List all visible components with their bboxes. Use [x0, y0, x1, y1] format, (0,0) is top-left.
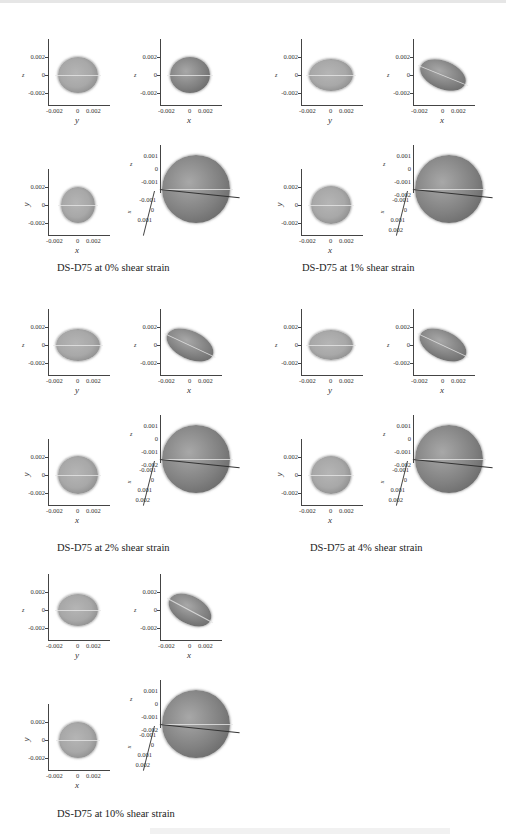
z-tick-label: 0: [155, 701, 158, 708]
y-tick-mark: [410, 327, 413, 328]
y-tick-mark: [298, 345, 301, 346]
plot-yx: 0.0020-0.002-0.00200.002yx: [273, 435, 368, 515]
x-axis: [160, 640, 222, 641]
y-tick-mark: [45, 628, 48, 629]
panel-caption: DS-D75 at 0% shear strain: [57, 262, 170, 273]
plot-3d: 0.0010-0.001-0.00100.001zx: [130, 145, 245, 245]
x-tick-label: 0.002: [198, 108, 213, 115]
plot-zy: 0.0020-0.002-0.00200.002zy: [20, 35, 115, 115]
z-tick-label: 0: [155, 166, 158, 173]
y-tick-label: 0.002: [142, 54, 157, 61]
z-axis-label: z: [130, 161, 132, 167]
x-axis-label: x: [187, 116, 191, 125]
x-axis: [48, 505, 110, 506]
y-axis-label: y: [22, 473, 31, 477]
x-tick-label: 0: [441, 108, 444, 115]
x-tick-label: -0.002: [46, 238, 63, 245]
y-tick-label: -0.002: [281, 90, 298, 97]
x-tick-label: -0.001: [392, 467, 409, 474]
x-tick-label: -0.002: [299, 238, 316, 245]
x-axis-label: x: [328, 246, 332, 255]
y-axis: [48, 439, 49, 505]
x-tick-label: -0.002: [46, 773, 63, 780]
x-tick-label: -0.002: [299, 508, 316, 515]
y-tick-label: -0.002: [281, 220, 298, 227]
x-axis-label: x: [328, 516, 332, 525]
y-tick-label: -0.002: [393, 360, 410, 367]
x-axis: [48, 235, 110, 236]
x-tick-label: -0.001: [139, 732, 156, 739]
x-axis-label: x: [440, 116, 444, 125]
x-tick-label: 0: [188, 108, 191, 115]
y-tick-label: -0.002: [140, 625, 157, 632]
x-tick-label: -0.001: [139, 467, 156, 474]
y-axis-label: z: [275, 342, 277, 348]
y-axis: [160, 39, 161, 105]
y-axis: [48, 704, 49, 770]
y-tick-label: 0.002: [30, 454, 45, 461]
y-tick-mark: [157, 75, 160, 76]
x-tick-label: -0.002: [299, 378, 316, 385]
x-axis: [413, 375, 475, 376]
x-axis-label: x: [75, 516, 79, 525]
z-axis: [160, 680, 161, 728]
x-axis: [160, 105, 222, 106]
y-tick-label: -0.002: [28, 755, 45, 762]
plot-zx: 0.0020-0.002-0.00200.002zx: [132, 35, 227, 115]
z-tick-label: -0.001: [141, 179, 158, 186]
x-axis-label: x: [379, 211, 385, 214]
y-tick-mark: [157, 327, 160, 328]
x-tick-label: 0: [441, 378, 444, 385]
plot-3d: 0.0010-0.001-0.002-0.00100.0010.002zx: [383, 145, 498, 245]
x-axis-label: x: [126, 211, 132, 214]
x-axis: [413, 105, 475, 106]
y-tick-mark: [157, 610, 160, 611]
x-tick-label: 0.002: [86, 508, 101, 515]
y-tick-mark: [45, 610, 48, 611]
y-axis-label: z: [134, 342, 136, 348]
y-tick-label: 0.002: [30, 184, 45, 191]
y-axis-label: z: [387, 72, 389, 78]
plot-zy: 0.0020-0.002-0.00200.002zy: [273, 305, 368, 385]
contact-line: [56, 740, 100, 741]
x-tick-label: 0.002: [198, 643, 213, 650]
plot-zy: 0.0020-0.002-0.00200.002zy: [20, 570, 115, 650]
panel-caption: DS-D75 at 1% shear strain: [302, 262, 415, 273]
x-tick-label: 0.002: [198, 378, 213, 385]
illegible-caption: [150, 828, 450, 834]
y-tick-mark: [298, 475, 301, 476]
y-tick-label: 0.002: [142, 589, 157, 596]
x-tick-label: 0: [76, 108, 79, 115]
y-tick-mark: [157, 57, 160, 58]
y-tick-mark: [298, 327, 301, 328]
y-axis-label: z: [134, 72, 136, 78]
x-axis-label: y: [75, 386, 79, 395]
y-tick-mark: [45, 740, 48, 741]
y-tick-label: -0.002: [281, 490, 298, 497]
y-axis-label: z: [22, 607, 24, 613]
plot-yx: 0.0020-0.002-0.00200.002yx: [20, 165, 115, 245]
plot-yx: 0.0020-0.002-0.00200.002yx: [20, 700, 115, 780]
x-tick-label: 0.001: [137, 217, 152, 224]
y-axis: [301, 309, 302, 375]
x-axis-label: x: [126, 746, 132, 749]
x-axis: [301, 105, 363, 106]
x-axis-label: x: [75, 781, 79, 790]
contact-line: [55, 75, 101, 76]
y-tick-label: -0.002: [140, 360, 157, 367]
y-axis: [160, 574, 161, 640]
y-axis-label: z: [22, 342, 24, 348]
y-tick-mark: [45, 493, 48, 494]
y-tick-mark: [45, 345, 48, 346]
plot-zy: 0.0020-0.002-0.00200.002zy: [20, 305, 115, 385]
y-axis: [301, 439, 302, 505]
y-tick-mark: [45, 57, 48, 58]
x-tick-label: 0: [329, 108, 332, 115]
x-tick-label: -0.002: [411, 378, 428, 385]
y-axis: [160, 309, 161, 375]
plot-3d: 0.0010-0.001-0.002-0.00100.0010.002zx: [383, 415, 498, 515]
x-axis: [301, 375, 363, 376]
x-axis: [301, 505, 363, 506]
y-tick-mark: [45, 475, 48, 476]
x-tick-label: 0.002: [86, 773, 101, 780]
